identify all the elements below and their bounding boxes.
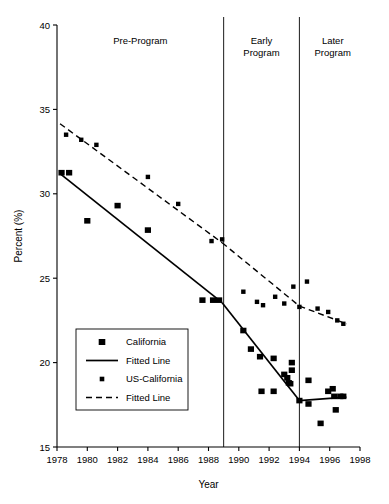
- data-point-us-california: [297, 305, 301, 309]
- data-point-california: [240, 328, 246, 334]
- y-tick-label: 25: [39, 273, 50, 284]
- x-tick-label: 1980: [77, 454, 98, 465]
- legend-label-3: US-California: [126, 373, 183, 384]
- data-point-california: [289, 367, 295, 373]
- data-point-california: [289, 360, 295, 366]
- y-tick-label: 30: [39, 188, 50, 199]
- x-tick-label: 1982: [107, 454, 128, 465]
- y-axis-title: Percent (%): [13, 210, 24, 263]
- chart-legend: CaliforniaFitted LineUS-CaliforniaFitted…: [76, 329, 188, 410]
- data-point-us-california: [305, 279, 309, 283]
- data-point-california: [318, 421, 324, 427]
- data-point-california: [199, 297, 205, 303]
- y-tick-label: 20: [39, 357, 50, 368]
- data-point-us-california: [273, 295, 277, 299]
- data-point-california: [257, 354, 263, 360]
- data-point-us-california: [335, 318, 339, 322]
- data-point-us-california: [291, 284, 295, 288]
- data-point-california: [340, 394, 346, 400]
- data-point-us-california: [146, 175, 150, 179]
- legend-label-2: Fitted Line: [126, 355, 170, 366]
- chart-background: [0, 0, 389, 504]
- x-tick-label: 1978: [46, 454, 67, 465]
- data-point-us-california: [209, 239, 213, 243]
- data-point-california: [271, 388, 277, 394]
- data-point-california: [287, 381, 293, 387]
- data-point-us-california: [341, 322, 345, 326]
- data-point-california: [305, 401, 311, 407]
- x-tick-label: 1990: [228, 454, 249, 465]
- y-tick-label: 15: [39, 442, 50, 453]
- data-point-us-california: [282, 301, 286, 305]
- data-point-us-california: [176, 202, 180, 206]
- data-point-california: [66, 170, 72, 176]
- data-point-us-california: [241, 290, 245, 294]
- region-label-1: Pre-Program: [113, 35, 167, 46]
- y-tick-label: 40: [39, 20, 50, 31]
- data-point-us-california: [261, 303, 265, 307]
- data-point-california: [271, 356, 277, 362]
- data-point-california: [284, 375, 290, 381]
- data-point-california: [305, 378, 311, 384]
- data-point-us-california: [326, 310, 330, 314]
- x-tick-label: 1986: [168, 454, 189, 465]
- data-point-california: [331, 394, 337, 400]
- data-point-california: [115, 203, 121, 209]
- data-point-california: [84, 218, 90, 224]
- x-axis-title: Year: [198, 479, 219, 490]
- data-point-us-california: [255, 300, 259, 304]
- data-point-california: [258, 388, 264, 394]
- legend-marker-square-large: [99, 339, 106, 345]
- legend-label-4: Fitted Line: [126, 392, 170, 403]
- x-tick-label: 1994: [289, 454, 310, 465]
- scatter-chart: 1520253035401978198019821984198619881990…: [0, 0, 389, 504]
- data-point-california: [145, 227, 151, 233]
- data-point-us-california: [220, 237, 224, 241]
- y-tick-label: 35: [39, 104, 50, 115]
- data-point-us-california: [315, 306, 319, 310]
- data-point-california: [248, 346, 254, 352]
- data-point-california: [210, 297, 216, 303]
- data-point-california: [296, 398, 302, 404]
- x-tick-label: 1992: [259, 454, 280, 465]
- legend-label-1: California: [126, 336, 167, 347]
- chart-container: 1520253035401978198019821984198619881990…: [0, 0, 389, 504]
- x-tick-label: 1984: [137, 454, 158, 465]
- data-point-california: [333, 407, 339, 413]
- data-point-california: [58, 170, 64, 176]
- legend-marker-square-small: [100, 377, 105, 382]
- x-tick-label: 1998: [349, 454, 370, 465]
- x-tick-label: 1996: [319, 454, 340, 465]
- data-point-california: [216, 297, 222, 303]
- data-point-us-california: [64, 133, 68, 137]
- data-point-california: [330, 386, 336, 392]
- data-point-us-california: [94, 143, 98, 147]
- data-point-us-california: [79, 138, 83, 142]
- x-tick-label: 1988: [198, 454, 219, 465]
